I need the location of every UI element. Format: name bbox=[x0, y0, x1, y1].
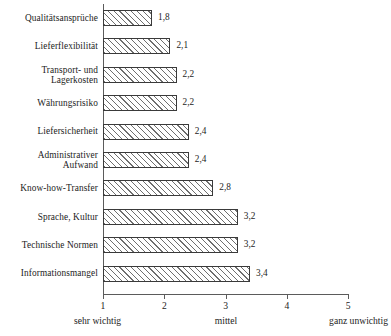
category-label: Liefersicherheit bbox=[0, 126, 98, 136]
axis-tick bbox=[103, 294, 104, 299]
bar-value-label: 2,4 bbox=[195, 153, 207, 165]
bar-container bbox=[103, 10, 152, 26]
bar-row: Know-how-Transfer2,8 bbox=[0, 179, 391, 197]
bar-row: Währungsrisiko2,2 bbox=[0, 94, 391, 112]
bar-value-label: 3,4 bbox=[256, 267, 268, 279]
bar-row: Qualitätsansprüche1,8 bbox=[0, 9, 391, 27]
bar-row: Technische Normen3,2 bbox=[0, 236, 391, 254]
axis-tick bbox=[164, 294, 165, 299]
bar bbox=[103, 38, 170, 54]
bar-row: Lieferflexibilität2,1 bbox=[0, 37, 391, 55]
bar-row: Administrativer Aufwand2,4 bbox=[0, 151, 391, 169]
bar bbox=[103, 10, 152, 26]
scale-anchor-center: mittel bbox=[215, 315, 237, 327]
plot-area: Qualitätsansprüche1,8Lieferflexibilität2… bbox=[0, 0, 391, 336]
axis-tick-label: 2 bbox=[152, 300, 176, 312]
bar-row: Informationsmangel3,4 bbox=[0, 265, 391, 283]
bar bbox=[103, 237, 238, 253]
category-label: Sprache, Kultur bbox=[0, 212, 98, 222]
bar-container bbox=[103, 237, 238, 253]
bar-container bbox=[103, 67, 177, 83]
bar bbox=[103, 266, 250, 282]
axis-tick-label: 5 bbox=[336, 300, 360, 312]
axis-tick-label: 3 bbox=[214, 300, 238, 312]
bar-value-label: 2,4 bbox=[195, 125, 207, 137]
bar bbox=[103, 67, 177, 83]
bar bbox=[103, 209, 238, 225]
bar-value-label: 3,2 bbox=[244, 238, 256, 250]
axis-tick-label: 4 bbox=[275, 300, 299, 312]
bar-value-label: 1,8 bbox=[158, 11, 170, 23]
bar-chart: Qualitätsansprüche1,8Lieferflexibilität2… bbox=[0, 0, 391, 336]
bar bbox=[103, 124, 189, 140]
bar-value-label: 3,2 bbox=[244, 210, 256, 222]
scale-anchor-left: sehr wichtig bbox=[74, 315, 121, 327]
axis-tick bbox=[287, 294, 288, 299]
category-label: Qualitätsansprüche bbox=[0, 13, 98, 23]
bar-value-label: 2,1 bbox=[176, 39, 188, 51]
axis-tick bbox=[226, 294, 227, 299]
bar bbox=[103, 180, 213, 196]
category-label: Transport- und Lagerkosten bbox=[0, 65, 98, 85]
category-label: Know-how-Transfer bbox=[0, 183, 98, 193]
scale-anchor-right: ganz unwichtig bbox=[329, 315, 388, 327]
category-label: Lieferflexibilität bbox=[0, 41, 98, 51]
bar bbox=[103, 152, 189, 168]
bar-row: Liefersicherheit2,4 bbox=[0, 123, 391, 141]
bar-container bbox=[103, 124, 189, 140]
bar bbox=[103, 95, 177, 111]
axis-tick bbox=[348, 294, 349, 299]
bar-container bbox=[103, 266, 250, 282]
category-label: Administrativer Aufwand bbox=[0, 150, 98, 170]
category-label: Währungsrisiko bbox=[0, 98, 98, 108]
bar-container bbox=[103, 152, 189, 168]
bar-row: Sprache, Kultur3,2 bbox=[0, 208, 391, 226]
bar-value-label: 2,2 bbox=[183, 68, 195, 80]
bar-value-label: 2,2 bbox=[183, 96, 195, 108]
bar-value-label: 2,8 bbox=[219, 181, 231, 193]
bar-container bbox=[103, 180, 213, 196]
bar-container bbox=[103, 209, 238, 225]
bar-container bbox=[103, 38, 170, 54]
bar-container bbox=[103, 95, 177, 111]
axis-tick-label: 1 bbox=[91, 300, 115, 312]
category-label: Informationsmangel bbox=[0, 268, 98, 278]
bar-row: Transport- und Lagerkosten2,2 bbox=[0, 66, 391, 84]
category-label: Technische Normen bbox=[0, 240, 98, 250]
